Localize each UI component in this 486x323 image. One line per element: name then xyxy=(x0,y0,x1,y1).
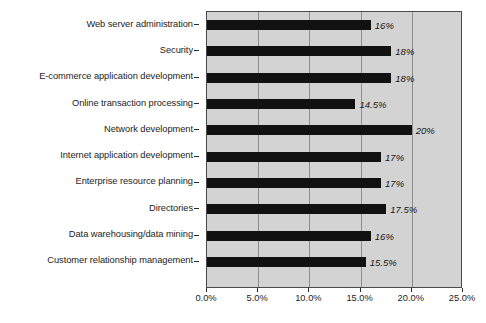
axis-tick-label: 15.0% xyxy=(346,293,372,303)
category-tick xyxy=(194,208,199,209)
bar xyxy=(207,125,412,135)
value-axis: 0.0%5.0%10.0%15.0%20.0%25.0% xyxy=(206,288,462,308)
bar-row: 18% xyxy=(207,65,461,91)
plot-area: 16%18%18%14.5%20%17%17%17.5%16%15.5% xyxy=(206,11,462,288)
axis-tick xyxy=(462,288,463,292)
category-label: Network development xyxy=(104,124,199,135)
bar-row: 16% xyxy=(207,222,461,248)
bar-value-label: 17% xyxy=(381,177,404,188)
bar xyxy=(207,178,381,188)
bar-row: 17% xyxy=(207,144,461,170)
category-tick xyxy=(194,235,199,236)
category-label-row: Online transaction processing xyxy=(0,90,199,116)
bar-row: 15.5% xyxy=(207,249,461,275)
category-label-row: Internet application development xyxy=(0,143,199,169)
bar-row: 17.5% xyxy=(207,196,461,222)
bar-row: 17% xyxy=(207,170,461,196)
bar xyxy=(207,257,366,267)
chart-caption xyxy=(0,316,486,323)
category-axis: Web server administrationSecurityE-comme… xyxy=(0,0,199,288)
bar-value-label: 14.5% xyxy=(355,99,386,110)
axis-tick-label: 20.0% xyxy=(398,293,424,303)
category-tick xyxy=(194,24,199,25)
category-tick xyxy=(194,182,199,183)
axis-tick xyxy=(360,288,361,292)
bar xyxy=(207,73,391,83)
category-label: E-commerce application development xyxy=(39,71,199,82)
bar-value-label: 18% xyxy=(391,72,414,83)
category-label: Internet application development xyxy=(60,150,199,161)
category-label: Directories xyxy=(149,203,199,214)
axis-tick-label: 10.0% xyxy=(295,293,321,303)
category-tick xyxy=(194,103,199,104)
category-label-row: Customer relationship management xyxy=(0,248,199,274)
category-label: Data warehousing/data mining xyxy=(69,229,199,240)
bar xyxy=(207,99,355,109)
bar xyxy=(207,231,371,241)
category-label-row: E-commerce application development xyxy=(0,64,199,90)
bar-row: 18% xyxy=(207,38,461,64)
axis-tick-label: 25.0% xyxy=(449,293,475,303)
bar-row: 16% xyxy=(207,12,461,38)
bar xyxy=(207,204,386,214)
category-tick xyxy=(194,50,199,51)
category-tick xyxy=(194,129,199,130)
axis-tick xyxy=(206,288,207,292)
category-label: Web server administration xyxy=(86,19,199,30)
category-tick xyxy=(194,261,199,262)
bar-value-label: 20% xyxy=(412,125,435,136)
bar xyxy=(207,46,391,56)
category-label-row: Data warehousing/data mining xyxy=(0,221,199,247)
axis-tick xyxy=(411,288,412,292)
bar xyxy=(207,20,371,30)
category-tick xyxy=(194,77,199,78)
category-label-row: Enterprise resource planning xyxy=(0,169,199,195)
bar-value-label: 17.5% xyxy=(386,204,417,215)
bar-chart: Web server administrationSecurityE-comme… xyxy=(0,0,486,323)
category-label: Enterprise resource planning xyxy=(76,176,199,187)
category-label-row: Security xyxy=(0,37,199,63)
axis-tick xyxy=(257,288,258,292)
axis-tick-label: 5.0% xyxy=(247,293,268,303)
bar-value-label: 16% xyxy=(371,20,394,31)
category-label-row: Directories xyxy=(0,195,199,221)
bar-value-label: 18% xyxy=(391,46,414,57)
bar-value-label: 17% xyxy=(381,151,404,162)
bar-value-label: 16% xyxy=(371,230,394,241)
bar-row: 20% xyxy=(207,117,461,143)
bar-value-label: 15.5% xyxy=(366,256,397,267)
axis-tick-label: 0.0% xyxy=(195,293,216,303)
category-label-row: Network development xyxy=(0,116,199,142)
bar-row: 14.5% xyxy=(207,91,461,117)
category-label: Customer relationship management xyxy=(47,255,199,266)
category-tick xyxy=(194,156,199,157)
bar xyxy=(207,152,381,162)
category-label: Online transaction processing xyxy=(72,98,199,109)
category-label-row: Web server administration xyxy=(0,11,199,37)
axis-tick xyxy=(308,288,309,292)
